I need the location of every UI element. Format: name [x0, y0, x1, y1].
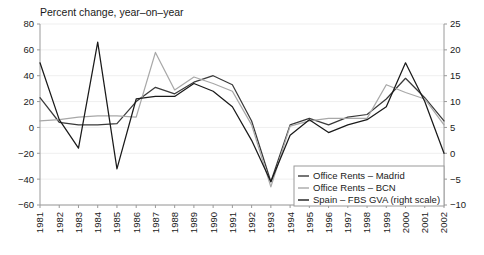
y2-tick-label: 15 [450, 70, 461, 81]
line-chart: 806040200−20−40−60 2520151050−5−10 19811… [0, 0, 484, 255]
x-tick-label: 1988 [169, 212, 180, 233]
x-tick-label: 1990 [208, 212, 219, 233]
legend-label: Office Rents – BCN [313, 182, 396, 193]
x-tick-label: 1998 [361, 212, 372, 233]
y-tick-label: 40 [23, 70, 34, 81]
x-tick-label: 1999 [381, 212, 392, 233]
x-tick-label: 1986 [131, 212, 142, 233]
data-series [40, 42, 444, 187]
y-tick-label: 0 [29, 122, 34, 133]
x-tick-label: 1983 [73, 212, 84, 233]
x-tick-label: 1984 [92, 212, 103, 233]
x-tick-label: 1997 [342, 212, 353, 233]
y2-tick-label: 10 [450, 96, 461, 107]
y-tick-label: −40 [18, 174, 34, 185]
y2-axis-ticks: 2520151050−5−10 [444, 18, 466, 210]
x-tick-label: 2000 [400, 212, 411, 233]
x-tick-label: 1989 [188, 212, 199, 233]
y2-tick-label: −10 [450, 199, 466, 210]
y-axis-ticks: 806040200−20−40−60 [18, 18, 40, 210]
x-tick-label: 1995 [304, 212, 315, 233]
y-tick-label: −20 [18, 148, 34, 159]
chart-title: Percent change, year–on–year [40, 6, 184, 18]
chart-container: 806040200−20−40−60 2520151050−5−10 19811… [0, 0, 484, 255]
x-tick-label: 1992 [246, 212, 257, 233]
y-tick-label: 80 [23, 18, 34, 29]
x-tick-label: 1996 [323, 212, 334, 233]
chart-legend: Office Rents – MadridOffice Rents – BCNS… [294, 166, 444, 206]
x-tick-label: 1994 [285, 212, 296, 233]
x-tick-label: 1991 [227, 212, 238, 233]
y2-tick-label: 20 [450, 44, 461, 55]
x-tick-label: 2002 [438, 212, 449, 233]
x-tick-label: 1985 [111, 212, 122, 233]
y2-tick-label: 5 [450, 122, 455, 133]
y-tick-label: −60 [18, 199, 34, 210]
x-tick-label: 1982 [54, 212, 65, 233]
legend-label: Office Rents – Madrid [313, 170, 405, 181]
x-tick-label: 2001 [419, 212, 430, 233]
y2-tick-label: 0 [450, 148, 455, 159]
y-tick-label: 20 [23, 96, 34, 107]
legend-label: Spain – FBS GVA (right scale) [313, 194, 440, 205]
y-tick-label: 60 [23, 44, 34, 55]
series-line [40, 42, 444, 182]
x-axis-ticks: 1981198219831984198519861987198819891990… [34, 205, 449, 233]
x-tick-label: 1987 [150, 212, 161, 233]
y2-tick-label: 25 [450, 18, 461, 29]
y2-tick-label: −5 [450, 174, 461, 185]
x-tick-label: 1981 [34, 212, 45, 233]
x-tick-label: 1993 [265, 212, 276, 233]
